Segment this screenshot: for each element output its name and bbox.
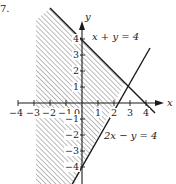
x-tick-label: 1 — [94, 108, 102, 118]
y-tick-label: 1 — [72, 82, 80, 92]
x-tick-label: 4 — [142, 108, 150, 118]
y-tick-label: −1 — [64, 114, 80, 124]
x-axis-arrow-icon — [155, 100, 164, 106]
equation-label-line2: 2x − y = 4 — [104, 131, 158, 141]
y-tick-label: 2 — [72, 66, 80, 76]
equation-label-line1: x + y = 4 — [92, 32, 139, 42]
x-tick-label: −4 — [8, 108, 24, 118]
y-tick-label: −2 — [64, 130, 80, 140]
y-tick-label: −3 — [64, 146, 80, 156]
y-tick-label: 4 — [72, 34, 80, 44]
x-axis-label: x — [167, 98, 173, 108]
x-tick-label: 3 — [126, 108, 134, 118]
y-axis-label: y — [85, 12, 91, 22]
y-tick-label: 3 — [72, 50, 80, 60]
x-tick-label: −2 — [41, 108, 57, 118]
y-axis-arrow-icon — [79, 21, 85, 30]
x-tick-label: 2 — [110, 108, 118, 118]
problem-number: 7. — [0, 4, 10, 14]
x-tick-label: −3 — [25, 108, 41, 118]
inequality-graph: 7. y x −4 −3 −2 −1 0 1 2 3 4 4 3 2 1 −1 … — [0, 0, 176, 184]
y-tick-label: −4 — [64, 162, 80, 172]
graph-canvas — [0, 0, 176, 184]
